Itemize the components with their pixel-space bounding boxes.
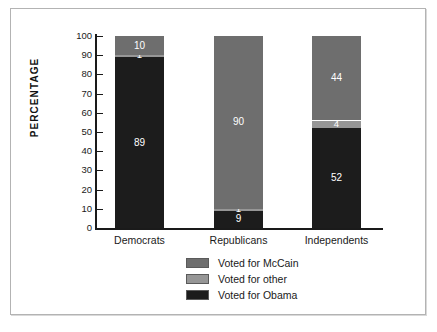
y-axis-tick-label: 0	[44, 223, 92, 233]
bar-segment[interactable]: 89	[115, 57, 164, 228]
y-axis-tick-labels: 1009080706050403020100	[36, 0, 92, 332]
bar-segment-value-label: 9	[236, 214, 242, 224]
bar-segment[interactable]: 90	[214, 36, 263, 209]
bar-segment[interactable]: 44	[312, 36, 361, 120]
legend-item-label: Voted for McCain	[218, 257, 299, 269]
bar-segment-value-label: 44	[331, 73, 342, 83]
y-axis-tick-label: 80	[44, 69, 92, 79]
legend-color-swatch	[186, 274, 209, 284]
bar-group-democrats[interactable]: 89110	[115, 36, 164, 228]
legend-item-label: Voted for other	[218, 273, 287, 285]
chart-legend: Voted for McCainVoted for otherVoted for…	[186, 256, 299, 304]
legend-color-swatch	[186, 290, 209, 300]
legend-item[interactable]: Voted for other	[186, 272, 299, 286]
y-axis-tick-label: 90	[44, 50, 92, 60]
y-axis-tick-label: 40	[44, 146, 92, 156]
x-axis-line	[95, 228, 383, 230]
bar-segment-value-label: 10	[134, 41, 145, 51]
legend-item[interactable]: Voted for Obama	[186, 288, 299, 302]
legend-item[interactable]: Voted for McCain	[186, 256, 299, 270]
y-axis-tick-mark	[97, 228, 103, 229]
legend-item-label: Voted for Obama	[218, 289, 297, 301]
bar-segment[interactable]: 1	[214, 209, 263, 211]
chart-figure: PERCENTAGE 1009080706050403020100 891109…	[0, 0, 437, 332]
plot-area: 89110919052444	[96, 36, 381, 228]
legend-color-swatch	[186, 258, 209, 268]
bar-group-republicans[interactable]: 9190	[214, 36, 263, 228]
y-axis-tick-label: 60	[44, 108, 92, 118]
bar-segment-value-label: 89	[134, 138, 145, 148]
y-axis-tick-label: 100	[44, 31, 92, 41]
y-axis-tick-label: 30	[44, 165, 92, 175]
y-axis-tick-label: 20	[44, 185, 92, 195]
y-axis-tick-label: 70	[44, 89, 92, 99]
bar-segment[interactable]: 4	[312, 121, 361, 129]
bar-segment-value-label: 90	[233, 117, 244, 127]
bar-segment[interactable]: 1	[115, 55, 164, 57]
x-axis-label-independents: Independents	[277, 234, 397, 246]
bar-group-independents[interactable]: 52444	[312, 36, 361, 228]
y-axis-tick-label: 50	[44, 127, 92, 137]
bar-segment[interactable]: 52	[312, 128, 361, 228]
bar-segment[interactable]: 10	[115, 36, 164, 55]
bar-segment-value-label: 52	[331, 173, 342, 183]
y-axis-tick-label: 10	[44, 204, 92, 214]
